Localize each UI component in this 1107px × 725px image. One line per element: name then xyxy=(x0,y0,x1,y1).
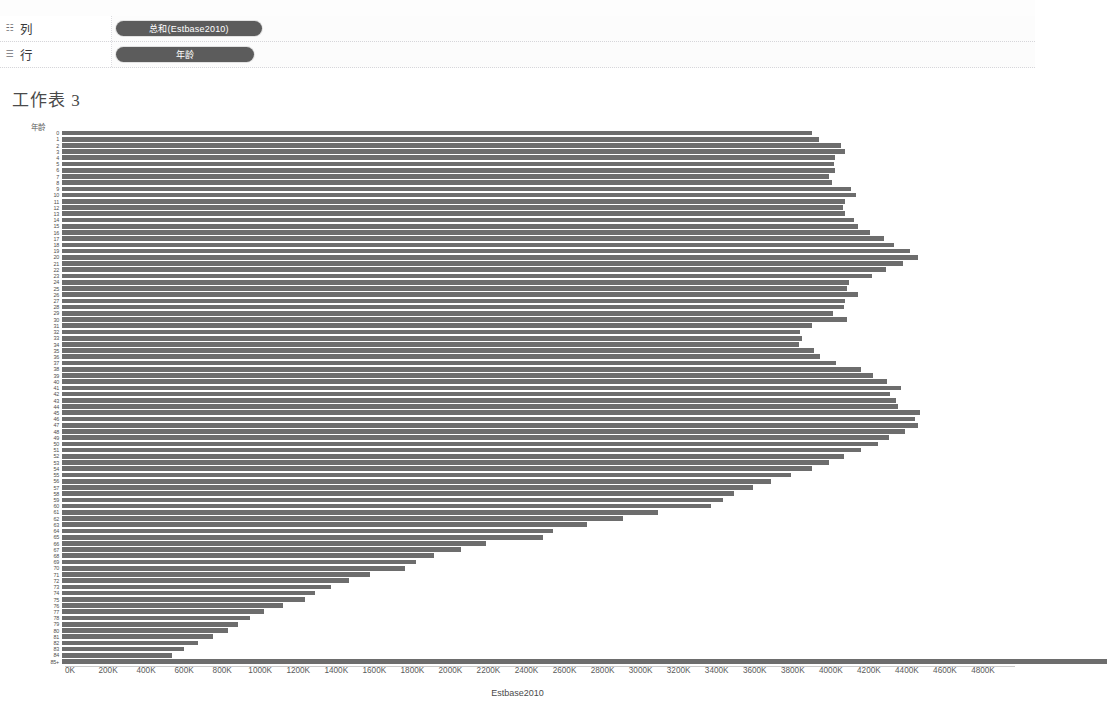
bar[interactable] xyxy=(62,578,349,583)
bar[interactable] xyxy=(62,541,486,546)
bar[interactable] xyxy=(62,535,543,540)
bar[interactable] xyxy=(62,323,812,328)
bar[interactable] xyxy=(62,336,802,341)
bar[interactable] xyxy=(62,647,184,652)
bar[interactable] xyxy=(62,330,800,335)
y-axis-tick-label: 47 xyxy=(0,422,62,428)
bar[interactable] xyxy=(62,417,915,422)
y-axis-tick-label: 80 xyxy=(0,628,62,634)
bar[interactable] xyxy=(62,641,198,646)
x-axis-tick-label: 3200K xyxy=(667,666,691,675)
bar[interactable] xyxy=(62,659,1107,664)
bar[interactable] xyxy=(62,553,434,558)
bar[interactable] xyxy=(62,205,843,210)
bar[interactable] xyxy=(62,155,835,160)
bar[interactable] xyxy=(62,137,819,142)
bar[interactable] xyxy=(62,187,851,192)
bar[interactable] xyxy=(62,597,305,602)
bar[interactable] xyxy=(62,392,890,397)
bar[interactable] xyxy=(62,211,845,216)
bar[interactable] xyxy=(62,249,910,254)
bar[interactable] xyxy=(62,473,791,478)
y-axis-tick-label: 1 xyxy=(0,136,62,142)
bar[interactable] xyxy=(62,572,370,577)
bar[interactable] xyxy=(62,274,872,279)
bar[interactable] xyxy=(62,634,213,639)
bar[interactable] xyxy=(62,498,723,503)
bar[interactable] xyxy=(62,379,887,384)
bar-row[interactable]: 85+ xyxy=(0,659,1035,665)
bar[interactable] xyxy=(62,622,238,627)
bar[interactable] xyxy=(62,529,553,534)
bar[interactable] xyxy=(62,292,858,297)
bar[interactable] xyxy=(62,423,918,428)
bar[interactable] xyxy=(62,267,886,272)
bar[interactable] xyxy=(62,342,799,347)
bar[interactable] xyxy=(62,398,896,403)
bar[interactable] xyxy=(62,442,878,447)
bar[interactable] xyxy=(62,311,833,316)
bar[interactable] xyxy=(62,361,836,366)
bar[interactable] xyxy=(62,299,845,304)
bar[interactable] xyxy=(62,286,847,291)
bar[interactable] xyxy=(62,168,835,173)
bar[interactable] xyxy=(62,354,820,359)
bar[interactable] xyxy=(62,609,264,614)
bar[interactable] xyxy=(62,560,416,565)
bar[interactable] xyxy=(62,199,845,204)
bar[interactable] xyxy=(62,174,829,179)
bar[interactable] xyxy=(62,367,861,372)
bar[interactable] xyxy=(62,230,870,235)
bar[interactable] xyxy=(62,224,858,229)
bar[interactable] xyxy=(62,143,841,148)
bar[interactable] xyxy=(62,466,812,471)
bar[interactable] xyxy=(62,218,854,223)
bar[interactable] xyxy=(62,448,861,453)
bar[interactable] xyxy=(62,429,905,434)
bar[interactable] xyxy=(62,180,832,185)
bar[interactable] xyxy=(62,516,623,521)
bar[interactable] xyxy=(62,236,884,241)
bar[interactable] xyxy=(62,585,331,590)
bar[interactable] xyxy=(62,386,901,391)
bar[interactable] xyxy=(62,255,918,260)
pill-sum-estbase2010[interactable]: 总和(Estbase2010) xyxy=(116,21,262,36)
bar[interactable] xyxy=(62,504,711,509)
columns-drop-zone[interactable]: 总和(Estbase2010) xyxy=(112,16,1035,41)
bar[interactable] xyxy=(62,454,844,459)
rows-shelf[interactable]: ☰ 行 年龄 xyxy=(0,42,1035,68)
y-axis-tick-label: 67 xyxy=(0,547,62,553)
bar[interactable] xyxy=(62,566,405,571)
bar[interactable] xyxy=(62,131,812,136)
bar[interactable] xyxy=(62,510,658,515)
bar[interactable] xyxy=(62,485,753,490)
bar[interactable] xyxy=(62,410,920,415)
bar[interactable] xyxy=(62,435,889,440)
bar[interactable] xyxy=(62,404,898,409)
bar[interactable] xyxy=(62,479,771,484)
bar[interactable] xyxy=(62,603,283,608)
bar[interactable] xyxy=(62,547,461,552)
rows-drop-zone[interactable]: 年龄 xyxy=(112,42,1035,67)
bar[interactable] xyxy=(62,460,829,465)
bar[interactable] xyxy=(62,491,734,496)
bar[interactable] xyxy=(62,243,894,248)
bar[interactable] xyxy=(62,628,228,633)
bar[interactable] xyxy=(62,280,849,285)
bar[interactable] xyxy=(62,616,250,621)
bar[interactable] xyxy=(62,317,847,322)
bar[interactable] xyxy=(62,653,172,658)
bar[interactable] xyxy=(62,373,873,378)
pill-age[interactable]: 年龄 xyxy=(116,47,254,62)
bar-chart: 年龄 0123456789101112131415161718192021222… xyxy=(0,118,1035,718)
bar[interactable] xyxy=(62,149,845,154)
bar[interactable] xyxy=(62,162,834,167)
bar[interactable] xyxy=(62,591,315,596)
bar[interactable] xyxy=(62,193,856,198)
bar[interactable] xyxy=(62,522,587,527)
bar[interactable] xyxy=(62,305,844,310)
bar[interactable] xyxy=(62,261,903,266)
bar-rows: 0123456789101112131415161718192021222324… xyxy=(0,130,1035,665)
bar[interactable] xyxy=(62,348,814,353)
columns-shelf[interactable]: ☷ 列 总和(Estbase2010) xyxy=(0,16,1035,42)
